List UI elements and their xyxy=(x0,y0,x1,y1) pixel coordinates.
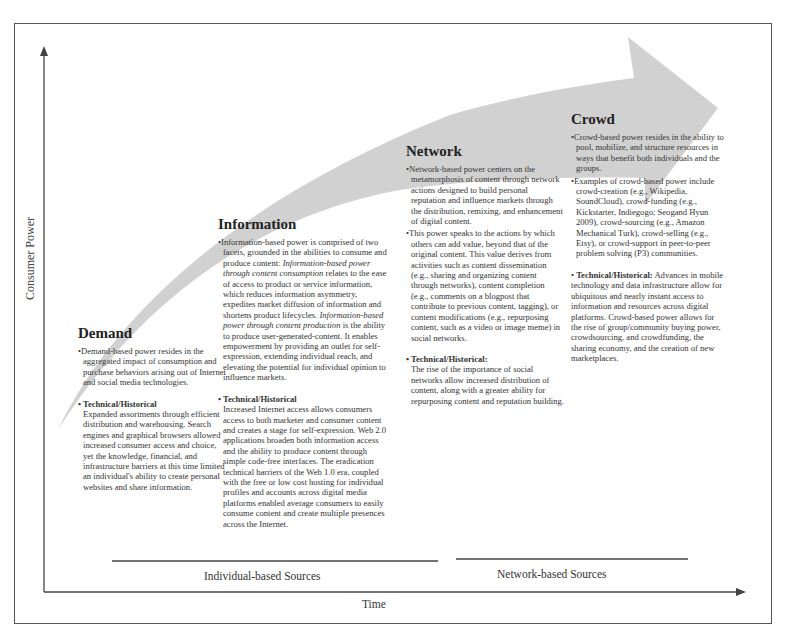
stage-bullet: •Demand-based power resides in the aggre… xyxy=(78,346,228,388)
stage-title: Crowd xyxy=(571,111,727,128)
technical-historical-block: • Technical/Historical: Advances in mobi… xyxy=(571,270,727,364)
technical-text: The rise of the importance of social net… xyxy=(411,364,564,406)
technical-heading: Technical/Historical: xyxy=(576,270,653,280)
y-axis-label: Consumer Power xyxy=(23,217,38,300)
stage-network: Network •Network-based power centers on … xyxy=(406,143,564,406)
x-axis-arrowhead-icon xyxy=(736,588,746,596)
stage-bullet: •This power speaks to the actions by whi… xyxy=(406,228,564,342)
technical-historical-block: • Technical/Historical Increased Interne… xyxy=(218,394,388,529)
technical-historical-block: • Technical/Historical: The rise of the … xyxy=(406,354,564,406)
y-axis-arrowhead-icon xyxy=(40,46,48,56)
stage-bullet: •Examples of crowd-based power include c… xyxy=(571,176,727,259)
stage-title: Network xyxy=(406,143,564,160)
stage-bullet: •Network-based power centers on the meta… xyxy=(406,164,564,226)
stage-title: Information xyxy=(218,216,388,233)
individual-sources-label: Individual-based Sources xyxy=(204,570,321,582)
technical-historical-block: • Technical/Historical Expanded assortme… xyxy=(78,399,228,493)
x-axis-label: Time xyxy=(362,598,386,610)
stage-information: Information •Information-based power is … xyxy=(218,216,388,529)
stage-title: Demand xyxy=(78,325,228,342)
technical-heading: • Technical/Historical xyxy=(78,399,228,409)
technical-text: Expanded assortments through efficient d… xyxy=(83,409,228,492)
technical-text: Increased Internet access allows consume… xyxy=(223,404,388,529)
stage-demand: Demand •Demand-based power resides in th… xyxy=(78,325,228,492)
network-sources-label: Network-based Sources xyxy=(497,568,607,580)
stage-bullet: •Information-based power is comprised of… xyxy=(218,237,388,383)
technical-heading: • Technical/Historical: xyxy=(406,354,564,364)
technical-heading: • Technical/Historical xyxy=(218,394,388,404)
technical-text: Advances in mobile technology and data i… xyxy=(571,270,723,363)
stage-crowd: Crowd •Crowd-based power resides in the … xyxy=(571,111,727,364)
stage-bullet: •Crowd-based power resides in the abilit… xyxy=(571,132,727,174)
